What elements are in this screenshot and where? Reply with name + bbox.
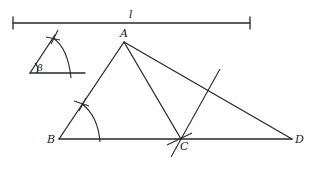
segment-l: l	[13, 8, 250, 29]
segment-ac	[124, 42, 181, 139]
segment-ab	[59, 42, 124, 139]
arc-at-b	[74, 98, 100, 142]
label-a: A	[119, 27, 128, 40]
segment-label: l	[129, 8, 133, 21]
label-c: C	[180, 140, 189, 153]
label-d: D	[294, 133, 304, 146]
triangle-abd	[59, 42, 292, 139]
construction-diagram: l β A B C D	[0, 0, 313, 172]
angle-label: β	[36, 62, 43, 73]
label-b: B	[46, 133, 55, 146]
given-angle-beta: β	[30, 30, 85, 78]
